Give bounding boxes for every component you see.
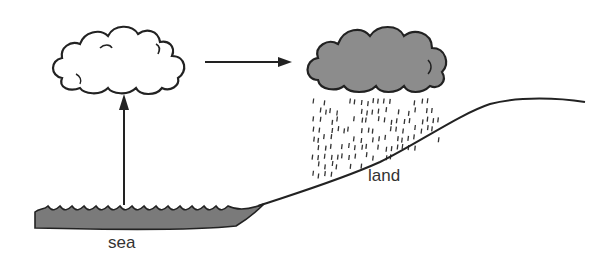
land-label: land (368, 166, 400, 186)
water-cycle-diagram (0, 0, 615, 258)
sea-label: sea (108, 233, 135, 253)
sea (35, 204, 264, 229)
land (258, 99, 585, 207)
evaporation-arrow (119, 94, 129, 205)
wind-arrow (205, 57, 292, 67)
rain-cloud (308, 27, 447, 92)
white-cloud (53, 27, 184, 94)
